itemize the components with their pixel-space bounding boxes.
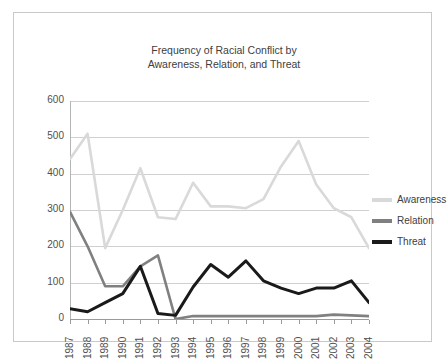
legend-label: Threat [397,236,426,247]
legend-swatch-relation [372,219,392,223]
x-axis-tick-label: 2003 [345,325,356,359]
legend-label: Awareness [397,194,446,205]
x-axis-tick-label: 1991 [134,325,145,359]
chart-title-line-1: Frequency of Racial Conflict by [74,43,374,57]
y-axis-tick-label: 300 [30,203,64,214]
x-axis-line [70,319,369,320]
x-axis-tick-label: 1997 [240,325,251,359]
x-axis-tick-label: 1998 [257,325,268,359]
chart-title-line-2: Awareness, Relation, and Threat [74,57,374,71]
x-axis-tick-label: 1988 [82,325,93,359]
x-axis-tick-mark [211,320,212,324]
x-axis-tick-mark [88,320,89,324]
x-axis-tick-mark [263,320,264,324]
x-axis-tick-label: 1994 [187,325,198,359]
legend-label: Relation [397,215,434,226]
series-line-awareness [70,134,369,248]
x-axis-tick-mark [158,320,159,324]
x-axis-tick-label: 2000 [293,325,304,359]
legend-swatch-awareness [372,198,392,202]
x-axis-tick-mark [299,320,300,324]
x-axis-tick-label: 2002 [328,325,339,359]
chart-frame: Frequency of Racial Conflict by Awarenes… [13,12,432,342]
x-axis-tick-mark [70,320,71,324]
x-axis-tick-label: 1990 [117,325,128,359]
y-axis-tick-label: 200 [30,239,64,250]
x-axis-tick-label: 2004 [363,325,374,359]
x-axis-tick-mark [123,320,124,324]
plot-area [70,101,369,319]
x-axis-tick-label: 1993 [170,325,181,359]
x-axis-tick-label: 1999 [275,325,286,359]
legend-item-awareness[interactable]: Awareness [372,189,446,210]
x-axis-tick-mark [316,320,317,324]
x-axis-tick-mark [246,320,247,324]
x-axis-tick-label: 1996 [222,325,233,359]
legend-swatch-threat [372,240,392,244]
x-axis-tick-mark [281,320,282,324]
y-axis-tick-label: 400 [30,167,64,178]
x-axis-tick-label: 2001 [310,325,321,359]
x-axis-tick-mark [334,320,335,324]
x-axis-tick-mark [228,320,229,324]
x-axis-tick-mark [193,320,194,324]
x-axis-tick-label: 1989 [99,325,110,359]
x-axis-tick-label: 1995 [205,325,216,359]
y-axis-tick-label: 100 [30,276,64,287]
chart-legend: AwarenessRelationThreat [372,189,446,252]
x-axis-tick-mark [351,320,352,324]
legend-item-relation[interactable]: Relation [372,210,446,231]
x-axis-tick-label: 1992 [152,325,163,359]
x-axis-tick-mark [140,320,141,324]
y-axis-tick-label: 0 [30,312,64,323]
legend-item-threat[interactable]: Threat [372,231,446,252]
chart-title: Frequency of Racial Conflict by Awarenes… [74,43,374,71]
x-axis-tick-mark [369,320,370,324]
x-axis-tick-mark [176,320,177,324]
series-line-threat [70,261,369,316]
y-axis-tick-label: 600 [30,94,64,105]
x-axis-tick-mark [105,320,106,324]
x-axis-tick-label: 1987 [64,325,75,359]
y-axis-tick-label: 500 [30,130,64,141]
